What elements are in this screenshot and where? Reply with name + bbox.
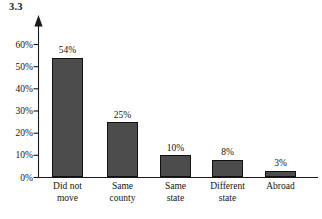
y-tick-30: 30% [0, 106, 33, 116]
bar-value-same-county: 25% [102, 110, 143, 121]
category-label-different-state: Different state [202, 181, 253, 204]
y-tick-50: 50% [0, 62, 33, 72]
figure-container: 3.3 60% 50% 40% 30% [0, 0, 322, 219]
category-label-line-1: Same [97, 181, 148, 193]
bar-value-abroad: 3% [260, 158, 301, 169]
bar-different-state [212, 160, 243, 178]
bar-value-different-state: 8% [207, 147, 248, 158]
bar-value-same-state: 10% [155, 143, 196, 154]
category-label-line-2: state [150, 193, 201, 205]
bar-same-county [107, 122, 138, 177]
bar-same-state [160, 155, 191, 177]
y-tick-10: 10% [0, 150, 33, 160]
category-label-line-2: state [202, 193, 253, 205]
category-label-line-2: county [97, 193, 148, 205]
category-label-did-not-move: Did not move [42, 181, 93, 204]
y-tick-20: 20% [0, 128, 33, 138]
category-label-line-1: Abroad [255, 181, 306, 193]
category-label-line-1: Different [202, 181, 253, 193]
bar-abroad [265, 171, 296, 178]
bar-value-did-not-move: 54% [47, 45, 88, 56]
category-label-line-2: move [42, 193, 93, 205]
category-label-abroad: Abroad [255, 181, 306, 193]
plot-area: 60% 50% 40% 30% 20% 10% 0% 54% 25% 10% 8… [0, 0, 322, 219]
y-tick-60: 60% [0, 40, 33, 50]
bar-did-not-move [52, 58, 83, 178]
category-label-same-state: Same state [150, 181, 201, 204]
category-label-line-1: Did not [42, 181, 93, 193]
y-tick-40: 40% [0, 84, 33, 94]
category-label-line-1: Same [150, 181, 201, 193]
category-label-same-county: Same county [97, 181, 148, 204]
y-tick-0: 0% [0, 173, 33, 183]
